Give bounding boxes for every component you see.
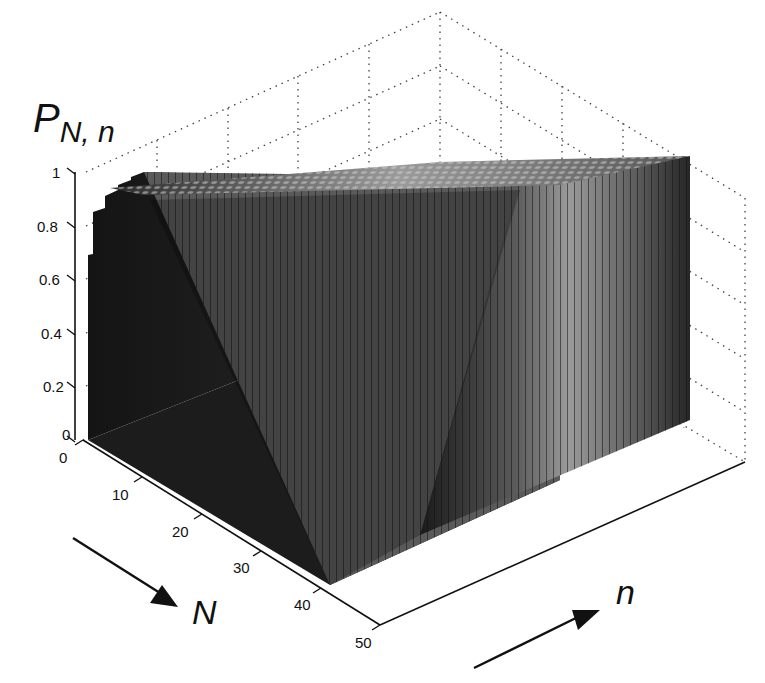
n-axis-title: n [616, 573, 635, 611]
z-axis-title-sub: N, n [60, 115, 115, 148]
bar3d-chart: 1 0.8 0.6 0.4 0.2 0 0 10 20 30 40 50 PN,… [0, 0, 765, 683]
z-tick-0.6: 0.6 [39, 271, 60, 288]
bar-surface [88, 156, 690, 585]
N-tick-40: 40 [294, 596, 311, 613]
z-tick-0.8: 0.8 [37, 218, 58, 235]
z-axis-title-main: P [33, 96, 60, 140]
N-tick-20: 20 [172, 523, 189, 540]
z-axis-ticks [67, 168, 75, 442]
z-tick-0: 0 [62, 426, 70, 443]
N-tick-0: 0 [59, 449, 67, 466]
N-direction-arrow-icon [73, 538, 178, 607]
z-tick-0.2: 0.2 [43, 378, 64, 395]
z-tick-0.4: 0.4 [41, 325, 62, 342]
N-tick-30: 30 [233, 559, 250, 576]
N-axis-title: N [192, 593, 217, 631]
n-direction-arrow-icon [474, 610, 600, 668]
z-axis-title: PN, n [33, 96, 115, 148]
z-tick-1: 1 [52, 164, 60, 181]
N-tick-10: 10 [112, 486, 129, 503]
N-tick-50: 50 [355, 634, 372, 651]
